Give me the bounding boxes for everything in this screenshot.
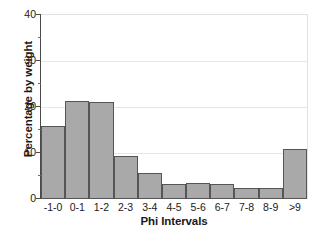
bar [41, 126, 65, 199]
y-tick-minor-25 [38, 83, 42, 84]
y-axis-tick-labels: 010203040 [16, 0, 36, 237]
y-tick-minor-5 [38, 175, 42, 176]
y-tick-major-0 [36, 198, 41, 199]
x-tick-label: 6-7 [210, 201, 234, 214]
x-tick-label: 3-4 [138, 201, 162, 214]
x-axis-title: Phi Intervals [41, 215, 307, 227]
bar [114, 156, 138, 199]
y-tick-label-10: 10 [18, 147, 36, 157]
bar [162, 184, 186, 199]
x-tick-label: 1-2 [89, 201, 113, 214]
x-tick-label: >9 [283, 201, 307, 214]
y-tick-major-20 [36, 106, 41, 107]
y-tick-major-30 [36, 60, 41, 61]
y-tick-label-20: 20 [18, 101, 36, 111]
bar [283, 149, 307, 199]
x-tick-label: 5-6 [186, 201, 210, 214]
bar-series [41, 15, 307, 199]
bar [186, 183, 210, 199]
bar [138, 173, 162, 199]
y-tick-minor-15 [38, 129, 42, 130]
y-tick-major-10 [36, 152, 41, 153]
plot-area [41, 14, 308, 199]
bar [210, 184, 234, 199]
y-tick-label-0: 0 [18, 193, 36, 203]
x-tick-label: 8-9 [259, 201, 283, 214]
bar [65, 101, 89, 199]
x-tick-label: -1-0 [41, 201, 65, 214]
bar [234, 188, 258, 199]
x-tick-label: 7-8 [234, 201, 258, 214]
y-tick-label-40: 40 [18, 9, 36, 19]
bar [89, 102, 113, 199]
x-tick-label: 0-1 [65, 201, 89, 214]
y-tick-minor-35 [38, 37, 42, 38]
bar [259, 188, 283, 200]
bar-chart: Percentage by weight 010203040 -1-00-11-… [0, 0, 315, 237]
y-tick-major-40 [36, 14, 41, 15]
x-tick-label: 2-3 [114, 201, 138, 214]
y-tick-label-30: 30 [18, 55, 36, 65]
x-tick-label: 4-5 [162, 201, 186, 214]
